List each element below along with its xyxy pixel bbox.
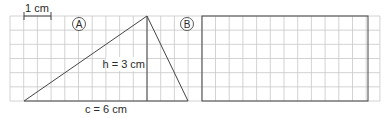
diagram: 1 cm A h = 3 cm c = 6 cm B [0, 0, 386, 118]
label-a: A [76, 19, 83, 30]
grid [10, 16, 380, 101]
base-label: c = 6 cm [85, 103, 127, 115]
height-label: h = 3 cm [103, 58, 146, 70]
label-b: B [184, 19, 191, 30]
label-b-marker: B [181, 18, 194, 31]
scale-label: 1 cm [25, 2, 49, 14]
label-a-marker: A [73, 18, 86, 31]
